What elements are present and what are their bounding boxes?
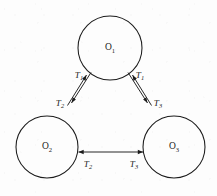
edge-label-o3-o2: T2	[84, 159, 93, 170]
diagram-canvas: O1 O2 O3 T1 T2 T1 T3 T2 T3	[0, 0, 217, 196]
node-label-o3: O3	[169, 141, 180, 152]
edge-o3-o2-arrowhead	[79, 150, 84, 155]
edge-label-o1-o3: T3	[154, 98, 162, 109]
edge-label-o1-o2: T2	[56, 98, 65, 109]
edge-label-o3-o1: T1	[136, 70, 144, 81]
edge-o2-o3-arrowhead	[138, 150, 143, 155]
diagram-svg: O1 O2 O3 T1 T2 T1 T3 T2 T3	[0, 0, 217, 196]
edge-label-o2-o1: T1	[75, 70, 83, 81]
edge-o2-o3	[79, 150, 144, 155]
node-label-o1: O1	[105, 42, 115, 53]
edge-label-o2-o3: T3	[130, 159, 138, 170]
node-label-o2: O2	[42, 141, 52, 152]
